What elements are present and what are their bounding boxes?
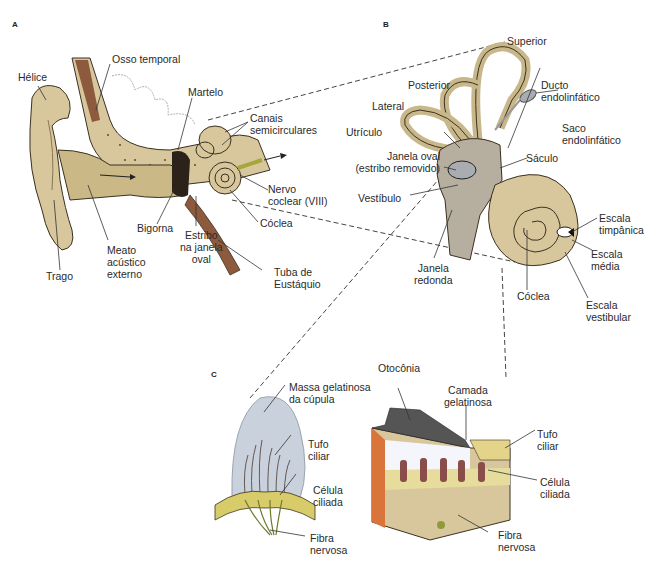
label-escala-timpanica: Escala timpânica	[599, 212, 644, 236]
label-coclea-a: Cóclea	[260, 217, 293, 229]
label-coclea-b: Cóclea	[517, 290, 550, 302]
label-tufo-ciliar-left: Tufo ciliar	[308, 438, 330, 462]
panel-c-cupula	[215, 397, 315, 535]
leader-lines	[38, 64, 597, 536]
label-utriculo: Utrículo	[346, 126, 382, 138]
label-celula-ciliada-left: Célula ciliada	[313, 484, 343, 508]
label-janela-oval: Janela oval (estribo removido)	[320, 150, 440, 174]
label-posterior: Posterior	[408, 79, 450, 91]
label-superior: Superior	[507, 35, 547, 47]
label-escala-vestibular: Escala vestibular	[586, 299, 631, 323]
panel-c-macula	[372, 408, 510, 540]
label-janela-redonda: Janela redonda	[414, 262, 453, 286]
label-tuba-eustaquio: Tuba de Eustáquio	[274, 266, 321, 290]
label-tufo-ciliar-right: Tufo ciliar	[537, 428, 559, 452]
label-saculo: Sáculo	[526, 152, 558, 164]
label-estribo: Estribo na janela oval	[180, 229, 223, 265]
label-bigorna: Bigorna	[137, 222, 173, 234]
label-osso-temporal: Osso temporal	[112, 53, 180, 65]
label-massa-gelatinosa: Massa gelatinosa da cúpula	[289, 381, 371, 405]
label-celula-ciliada-right: Célula ciliada	[540, 476, 570, 500]
label-helice: Hélice	[18, 71, 47, 83]
panel-letter-c: C	[211, 370, 217, 379]
label-trago: Trago	[46, 270, 73, 282]
panel-a-ear	[30, 58, 287, 275]
label-meato-acustico-externo: Meato acústico externo	[107, 244, 146, 280]
label-vestibulo: Vestíbulo	[358, 192, 401, 204]
label-otoconia: Otocônia	[378, 362, 420, 374]
label-fibra-nervosa-right: Fibra nervosa	[498, 529, 535, 553]
label-lateral: Lateral	[372, 100, 404, 112]
label-camada-gelatinosa: Camada gelatinosa	[444, 384, 492, 408]
label-canais-semicirculares: Canais semicirculares	[250, 112, 317, 136]
label-martelo: Martelo	[188, 86, 223, 98]
panel-letter-a: A	[12, 20, 18, 29]
panel-letter-b: B	[383, 20, 389, 29]
label-ducto-endolinfatico: Ducto endolinfático	[541, 79, 600, 103]
label-escala-media: Escala média	[591, 248, 623, 272]
label-fibra-nervosa-left: Fibra nervosa	[310, 532, 347, 556]
label-saco-endolinfatico: Saco endolinfático	[562, 122, 621, 146]
label-nervo-coclear: Nervo coclear (VIII)	[268, 183, 328, 207]
